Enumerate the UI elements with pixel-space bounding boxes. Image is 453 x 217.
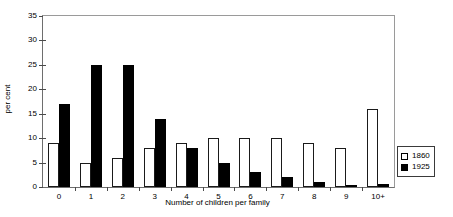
y-axis-tick-label: 5 bbox=[33, 159, 37, 167]
y-axis-tick-label: 25 bbox=[28, 61, 37, 69]
bar-1925-6 bbox=[250, 172, 261, 187]
y-axis-tick-inner bbox=[43, 163, 46, 164]
y-axis-tick-inner bbox=[43, 114, 46, 115]
x-axis-tick bbox=[298, 187, 299, 191]
bar-1925-8 bbox=[314, 182, 325, 187]
x-axis-tick bbox=[75, 187, 76, 191]
bar-1860-0 bbox=[48, 143, 59, 187]
bar-1860-6 bbox=[239, 138, 250, 187]
legend-item-label: 1925 bbox=[412, 163, 430, 171]
bar-1925-9 bbox=[346, 185, 357, 187]
bar-1860-10+ bbox=[367, 109, 378, 187]
x-axis-tick bbox=[266, 187, 267, 191]
y-axis-tick-label: 35 bbox=[28, 12, 37, 20]
y-axis-tick-label: 30 bbox=[28, 36, 37, 44]
bar-1860-8 bbox=[303, 143, 314, 187]
y-axis-tick bbox=[39, 187, 43, 188]
x-axis-tick bbox=[139, 187, 140, 191]
x-axis-tick bbox=[330, 187, 331, 191]
filled-square-swatch bbox=[401, 164, 408, 171]
y-axis-tick-inner bbox=[43, 89, 46, 90]
y-axis-tick-label: 0 bbox=[33, 183, 37, 191]
open-square-swatch bbox=[401, 153, 408, 160]
bar-chart: per cent 05101520253035 012345678910+ Nu… bbox=[0, 0, 453, 217]
legend-item-label: 1860 bbox=[412, 152, 430, 160]
legend-item-1860: 1860 bbox=[401, 151, 430, 161]
bar-1860-2 bbox=[112, 158, 123, 187]
plot-area: 05101520253035 012345678910+ bbox=[42, 15, 395, 188]
y-axis-tick-label: 10 bbox=[28, 134, 37, 142]
bar-1860-5 bbox=[208, 138, 219, 187]
x-axis-tick bbox=[203, 187, 204, 191]
y-axis-tick bbox=[39, 16, 43, 17]
x-axis-tick bbox=[107, 187, 108, 191]
bar-1925-10+ bbox=[378, 184, 389, 187]
bar-1925-5 bbox=[219, 163, 230, 187]
bar-1925-1 bbox=[91, 65, 102, 187]
bar-1860-7 bbox=[271, 138, 282, 187]
x-axis-title: Number of children per family bbox=[42, 198, 393, 208]
y-axis-tick-inner bbox=[43, 40, 46, 41]
bar-1860-9 bbox=[335, 148, 346, 187]
bar-1860-4 bbox=[176, 143, 187, 187]
chart-legend: 18601925 bbox=[397, 146, 435, 177]
bar-1925-3 bbox=[155, 119, 166, 187]
bar-1925-0 bbox=[59, 104, 70, 187]
bar-1925-7 bbox=[282, 177, 293, 187]
y-axis-tick-inner bbox=[43, 65, 46, 66]
x-axis-tick bbox=[234, 187, 235, 191]
x-axis-tick bbox=[171, 187, 172, 191]
bar-1860-3 bbox=[144, 148, 155, 187]
bar-1925-4 bbox=[187, 148, 198, 187]
x-axis-tick bbox=[362, 187, 363, 191]
y-axis-tick-label: 15 bbox=[28, 110, 37, 118]
y-axis-title: per cent bbox=[1, 14, 15, 185]
legend-item-1925: 1925 bbox=[401, 162, 430, 172]
y-axis-tick-label: 20 bbox=[28, 85, 37, 93]
y-axis-tick-inner bbox=[43, 138, 46, 139]
bar-1860-1 bbox=[80, 163, 91, 187]
bar-1925-2 bbox=[123, 65, 134, 187]
